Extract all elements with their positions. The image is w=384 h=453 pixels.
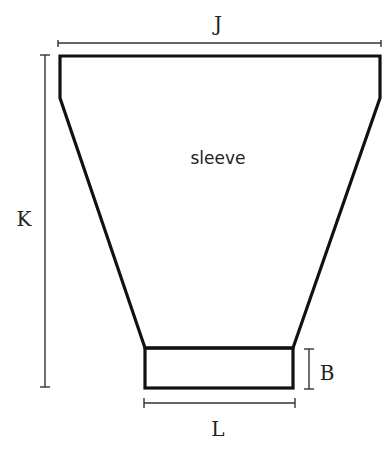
label-j: J xyxy=(212,12,222,36)
dimension-j: J xyxy=(58,12,381,47)
dimension-l: L xyxy=(144,398,295,441)
piece-label: sleeve xyxy=(190,148,245,168)
label-l: L xyxy=(211,417,224,441)
sleeve-schematic: J K sleeve B L xyxy=(0,0,384,453)
dimension-k: K xyxy=(17,55,50,387)
cuff-outline xyxy=(145,348,293,388)
sleeve-body-outline xyxy=(60,56,380,348)
dimension-b: B xyxy=(304,349,334,389)
label-b: B xyxy=(320,361,335,385)
label-k: K xyxy=(17,207,33,231)
